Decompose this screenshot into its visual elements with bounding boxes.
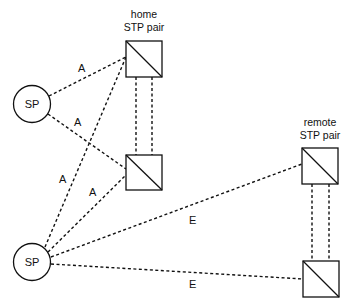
e-link-bottom-sp-remote-stp1	[51, 164, 302, 257]
a-link-top-sp-home-stp2	[48, 114, 126, 169]
link-label-e: E	[189, 214, 196, 226]
link-label-a: A	[74, 116, 82, 128]
stp-box-icon	[126, 155, 162, 190]
a-link-top-sp-home-stp1	[49, 57, 126, 96]
stp-box-icon	[126, 41, 162, 77]
remote-stp-pair: remote STP pair	[300, 116, 341, 297]
home-pair-label-line1: home	[131, 8, 157, 20]
remote-pair-label-line1: remote	[304, 116, 337, 128]
sp-node-top: SP	[14, 86, 51, 123]
link-label-a: A	[89, 186, 97, 198]
link-label-e: E	[189, 278, 196, 290]
link-label-a: A	[78, 62, 86, 74]
e-link-bottom-sp-remote-stp2	[51, 264, 303, 279]
stp-box-icon	[303, 261, 339, 297]
stp-box-icon	[302, 148, 338, 184]
sp-node-bottom: SP	[14, 244, 51, 281]
a-link-bottom-sp-home-stp1	[45, 57, 126, 247]
sp-label: SP	[25, 98, 40, 110]
home-pair-label-line2: STP pair	[124, 21, 165, 33]
sp-label: SP	[25, 256, 40, 268]
a-link-bottom-sp-home-stp2	[48, 175, 126, 252]
home-stp-pair: home STP pair	[124, 8, 165, 190]
stp-diagram: SP SP home STP pair remote STP pair A A	[0, 0, 355, 305]
link-label-a: A	[59, 173, 67, 185]
remote-pair-label-line2: STP pair	[300, 129, 341, 141]
